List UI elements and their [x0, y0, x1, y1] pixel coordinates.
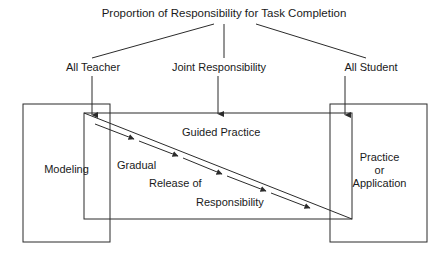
branch-line-left	[92, 24, 214, 58]
box-label-practice-application: Practice or Application	[332, 151, 427, 190]
title-branch-connectors	[92, 24, 366, 58]
diagram-canvas: Proportion of Responsibility for Task Co…	[0, 0, 448, 257]
box-label-practice-line2: or	[375, 164, 385, 176]
stage-label-all-teacher: All Teacher	[52, 61, 134, 74]
box-label-practice-line3: Application	[353, 177, 407, 189]
release-arrow-segment-1	[95, 124, 134, 139]
stage-arrows	[92, 76, 345, 115]
caption-line-gradual: Gradual	[117, 159, 156, 172]
branch-line-right	[256, 24, 366, 58]
release-arrow-segment-4	[227, 176, 266, 191]
caption-line-responsibility: Responsibility	[196, 196, 264, 209]
stage-label-joint-responsibility: Joint Responsibility	[158, 61, 280, 74]
caption-line-release-of: Release of	[149, 177, 202, 190]
box-label-practice-line1: Practice	[360, 151, 400, 163]
diagram-title: Proportion of Responsibility for Task Co…	[0, 7, 448, 21]
box-label-guided-practice: Guided Practice	[182, 126, 260, 139]
box-label-modeling: Modeling	[23, 163, 110, 176]
release-arrow-segment-2	[139, 141, 178, 156]
stage-label-all-student: All Student	[330, 61, 412, 74]
